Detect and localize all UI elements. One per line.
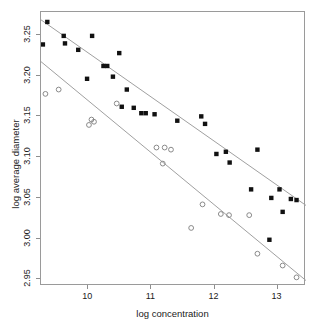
- data-point-open: [56, 87, 61, 92]
- scatter-canvas: [41, 12, 306, 286]
- x-tick-label: 13: [272, 291, 282, 301]
- data-point-filled: [294, 198, 298, 202]
- y-tick-label: 3.00: [22, 229, 32, 247]
- data-point-filled: [224, 150, 228, 154]
- y-tick-label: 2.95: [22, 270, 32, 288]
- data-point-open: [87, 123, 92, 128]
- data-point-filled: [45, 20, 49, 24]
- data-point-filled: [255, 147, 259, 151]
- chart-title: [40, 0, 305, 8]
- data-point-filled: [267, 238, 271, 242]
- data-point-filled: [85, 77, 89, 81]
- data-point-filled: [125, 87, 129, 91]
- data-point-filled: [269, 196, 273, 200]
- plot-area: [40, 11, 305, 285]
- data-point-filled: [277, 187, 281, 191]
- data-point-filled: [120, 105, 124, 109]
- data-point-filled: [90, 34, 94, 38]
- data-point-filled: [199, 114, 203, 118]
- data-point-open: [294, 275, 299, 280]
- data-point-filled: [152, 112, 156, 116]
- y-tick-label: 3.05: [22, 188, 32, 206]
- data-point-filled: [132, 106, 136, 110]
- data-point-filled: [203, 122, 207, 126]
- filled-square-series: [41, 20, 299, 242]
- data-point-filled: [139, 111, 143, 115]
- data-point-filled: [280, 210, 284, 214]
- y-tick-label: 3.25: [22, 25, 32, 43]
- data-point-filled: [175, 119, 179, 123]
- x-axis-label: log concentration: [40, 308, 305, 319]
- data-point-open: [247, 213, 252, 218]
- x-tick-label: 11: [146, 291, 155, 301]
- y-tick-label: 3.10: [22, 147, 32, 165]
- x-tick-label: 10: [82, 291, 92, 301]
- filled-fit: [41, 20, 306, 206]
- data-point-filled: [101, 64, 105, 68]
- y-axis-label: log average diameter: [10, 119, 21, 208]
- data-point-filled: [249, 187, 253, 191]
- data-point-open: [255, 251, 260, 256]
- open-circle-series: [43, 87, 299, 280]
- data-point-filled: [62, 34, 66, 38]
- data-point-filled: [63, 41, 67, 45]
- data-point-filled: [144, 111, 148, 115]
- data-point-open: [114, 101, 119, 106]
- data-point-open: [154, 145, 159, 150]
- data-point-open: [162, 145, 167, 150]
- data-point-filled: [76, 48, 80, 52]
- data-point-open: [43, 91, 48, 96]
- open-fit: [41, 62, 306, 281]
- data-point-open: [280, 263, 285, 268]
- data-point-open: [200, 202, 205, 207]
- data-point-open: [189, 226, 194, 231]
- data-point-filled: [289, 197, 293, 201]
- data-point-open: [169, 147, 174, 152]
- data-point-filled: [105, 64, 109, 68]
- x-tick-label: 12: [208, 291, 218, 301]
- data-point-open: [218, 212, 223, 217]
- data-point-filled: [227, 160, 231, 164]
- data-point-filled: [117, 51, 121, 55]
- y-tick-label: 3.20: [22, 66, 32, 84]
- data-point-filled: [214, 152, 218, 156]
- data-point-filled: [41, 42, 45, 46]
- data-point-filled: [111, 74, 115, 78]
- chart-figure: log average diameter 2.953.003.053.103.1…: [0, 0, 317, 328]
- y-tick-label: 3.15: [22, 107, 32, 125]
